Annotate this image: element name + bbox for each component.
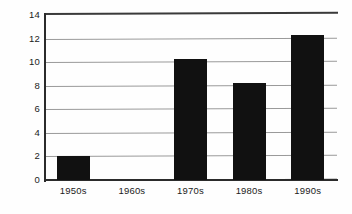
x-axis-tick-label: 1950s <box>44 185 103 196</box>
y-axis-tick-label: 4 <box>0 127 40 138</box>
y-axis-tick-label: 0 <box>0 174 40 185</box>
bar-chart: 02468101214 1950s1960s1970s1980s1990s <box>0 0 352 214</box>
x-axis-tick-label: 1970s <box>161 185 220 196</box>
x-axis-tick-labels: 1950s1960s1970s1980s1990s <box>44 185 337 205</box>
y-axis-tick-label: 2 <box>0 150 40 161</box>
x-axis-tick-label: 1990s <box>278 185 337 196</box>
x-axis-tick-label: 1960s <box>103 185 162 196</box>
bar-1980s <box>233 83 266 180</box>
y-axis-tick-labels: 02468101214 <box>0 0 40 214</box>
x-axis-tick-label: 1980s <box>220 185 279 196</box>
y-axis-tick-label: 10 <box>0 56 40 67</box>
bar-1950s <box>57 156 90 180</box>
bar-series <box>44 15 337 180</box>
bar-1970s <box>174 59 207 180</box>
bar-1990s <box>291 35 324 180</box>
y-axis-tick-label: 6 <box>0 103 40 114</box>
y-axis-tick-label: 14 <box>0 9 40 20</box>
y-axis-tick-label: 8 <box>0 80 40 91</box>
y-axis-tick-label: 12 <box>0 33 40 44</box>
